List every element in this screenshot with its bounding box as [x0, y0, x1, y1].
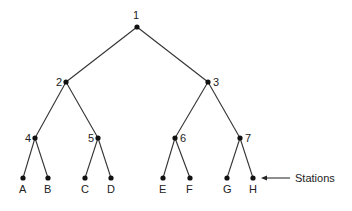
node-6	[172, 135, 177, 140]
node-label-3: 3	[213, 76, 219, 88]
edge-3-7	[208, 82, 240, 138]
node-G	[224, 175, 229, 180]
node-label-A: A	[19, 183, 27, 195]
node-E	[160, 175, 165, 180]
edge-7-H	[240, 138, 253, 178]
node-C	[82, 175, 87, 180]
edge-4-B	[35, 138, 48, 178]
stations-annotation: Stations	[261, 172, 335, 184]
node-label-7: 7	[245, 132, 251, 144]
node-A	[20, 175, 25, 180]
node-label-5: 5	[88, 132, 94, 144]
node-B	[45, 175, 50, 180]
node-label-D: D	[107, 183, 115, 195]
edge-1-3	[137, 27, 208, 82]
edge-5-C	[85, 138, 98, 178]
node-7	[237, 135, 242, 140]
node-H	[250, 175, 255, 180]
node-label-G: G	[223, 183, 232, 195]
node-4	[32, 135, 37, 140]
edge-4-A	[23, 138, 35, 178]
node-label-B: B	[44, 183, 51, 195]
node-label-C: C	[81, 183, 89, 195]
arrow-head-icon	[261, 176, 267, 181]
tree-diagram: 1234567ABCDEFGH Stations	[0, 0, 352, 211]
node-label-4: 4	[25, 132, 31, 144]
node-label-1: 1	[133, 9, 139, 21]
node-5	[95, 135, 100, 140]
edge-2-5	[66, 82, 98, 138]
tree-diagram-canvas: 1234567ABCDEFGH Stations	[0, 0, 352, 211]
edge-1-2	[66, 27, 137, 82]
node-label-6: 6	[180, 132, 186, 144]
edges	[23, 27, 253, 178]
node-label-H: H	[249, 183, 257, 195]
node-label-E: E	[159, 183, 166, 195]
node-label-2: 2	[56, 76, 62, 88]
node-D	[108, 175, 113, 180]
edge-6-F	[175, 138, 190, 178]
edge-3-6	[175, 82, 208, 138]
node-3	[205, 79, 210, 84]
edge-2-4	[35, 82, 66, 138]
node-1	[134, 24, 139, 29]
edge-5-D	[98, 138, 111, 178]
edge-6-E	[163, 138, 175, 178]
node-2	[63, 79, 68, 84]
stations-label: Stations	[295, 172, 335, 184]
node-F	[187, 175, 192, 180]
node-label-F: F	[186, 183, 193, 195]
edge-7-G	[227, 138, 240, 178]
